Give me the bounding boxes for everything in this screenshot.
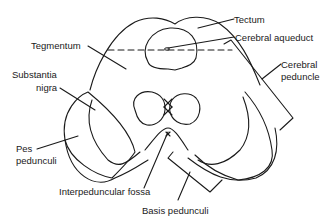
label-substantia-nigra-line2: nigra: [36, 82, 57, 93]
label-pes-pedunculi-line2: pedunculi: [16, 155, 57, 166]
label-substantia-nigra-line1: Substantia: [12, 69, 57, 80]
basis-pedunculi-bracket: [168, 152, 222, 192]
basis-right-outline: [188, 128, 277, 180]
leader-basis-pedunculi: [178, 172, 190, 200]
label-basis-pedunculi: Basis pedunculi: [142, 205, 209, 216]
label-cerebral-peduncle-line1: Cerebral: [281, 59, 317, 70]
leader-pes-pedunculi: [37, 136, 78, 149]
label-interpeduncular-fossa: Interpeduncular fossa: [59, 186, 150, 197]
interpeduncular-fossa: [145, 128, 188, 150]
label-tectum: Tectum: [234, 14, 265, 25]
leader-cerebral-aqueduct: [168, 37, 234, 48]
label-tegmentum: Tegmentum: [31, 40, 81, 51]
pes-right-inner: [198, 97, 249, 164]
label-cerebral-aqueduct: Cerebral aqueduct: [235, 32, 313, 43]
tectum-inner-outline: [145, 28, 197, 70]
label-cerebral-peduncle-line2: peduncle: [281, 71, 320, 82]
leader-cerebral-peduncle: [262, 64, 281, 79]
leader-tectum: [198, 19, 234, 28]
pes-left-inner: [89, 100, 140, 164]
substantia-nigra-left: [64, 92, 135, 178]
basis-left-outline: [65, 140, 148, 182]
cerebral-peduncle-bracket: [224, 40, 293, 130]
red-nucleus-left: [134, 92, 165, 125]
leader-substantia-nigra: [60, 88, 95, 110]
substantia-nigra-right: [195, 92, 272, 180]
label-pes-pedunculi-line1: Pes: [16, 143, 32, 154]
red-nucleus-right: [170, 94, 200, 125]
